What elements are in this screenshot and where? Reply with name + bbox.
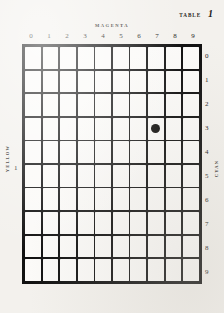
- grid-cell-c7-r5[interactable]: [148, 165, 164, 187]
- grid-cell-c3-r1[interactable]: [78, 71, 94, 93]
- grid-cell-c0-r0[interactable]: [25, 47, 41, 69]
- grid-cell-c3-r4[interactable]: [78, 141, 94, 163]
- grid-cell-c5-r0[interactable]: [113, 47, 129, 69]
- grid-cell-c3-r8[interactable]: [78, 236, 94, 258]
- grid-cell-c8-r8[interactable]: [166, 236, 182, 258]
- grid-cell-c3-r2[interactable]: [78, 94, 94, 116]
- grid-cell-c8-r1[interactable]: [166, 71, 182, 93]
- grid-cell-c8-r3[interactable]: [166, 118, 182, 140]
- grid-cell-c9-r0[interactable]: [183, 47, 199, 69]
- grid-cell-c4-r8[interactable]: [95, 236, 111, 258]
- grid-cell-c6-r6[interactable]: [130, 188, 146, 210]
- grid-cell-c2-r3[interactable]: [60, 118, 76, 140]
- grid-cell-c9-r3[interactable]: [183, 118, 199, 140]
- grid-cell-c6-r8[interactable]: [130, 236, 146, 258]
- grid-cell-c5-r1[interactable]: [113, 71, 129, 93]
- grid-cell-c9-r9[interactable]: [183, 259, 199, 281]
- grid-cell-c2-r5[interactable]: [60, 165, 76, 187]
- grid-cell-c9-r7[interactable]: [183, 212, 199, 234]
- grid-cell-c0-r2[interactable]: [25, 94, 41, 116]
- grid-cell-c2-r7[interactable]: [60, 212, 76, 234]
- grid-cell-c9-r4[interactable]: [183, 141, 199, 163]
- grid-cell-c4-r2[interactable]: [95, 94, 111, 116]
- grid-cell-c1-r7[interactable]: [43, 212, 59, 234]
- grid-cell-c5-r5[interactable]: [113, 165, 129, 187]
- grid-cell-c1-r0[interactable]: [43, 47, 59, 69]
- grid-cell-c3-r0[interactable]: [78, 47, 94, 69]
- grid-cell-c7-r0[interactable]: [148, 47, 164, 69]
- grid-cell-c5-r3[interactable]: [113, 118, 129, 140]
- grid-cell-c4-r7[interactable]: [95, 212, 111, 234]
- grid-cell-c6-r5[interactable]: [130, 165, 146, 187]
- grid-cell-c5-r8[interactable]: [113, 236, 129, 258]
- grid-cell-c6-r1[interactable]: [130, 71, 146, 93]
- grid-cell-c7-r7[interactable]: [148, 212, 164, 234]
- grid-cell-c4-r0[interactable]: [95, 47, 111, 69]
- grid-cell-c3-r3[interactable]: [78, 118, 94, 140]
- grid-cell-c1-r6[interactable]: [43, 188, 59, 210]
- grid-cell-c2-r0[interactable]: [60, 47, 76, 69]
- grid-cell-c1-r1[interactable]: [43, 71, 59, 93]
- grid-cell-c8-r7[interactable]: [166, 212, 182, 234]
- grid-cell-c4-r3[interactable]: [95, 118, 111, 140]
- grid-cell-c4-r4[interactable]: [95, 141, 111, 163]
- grid-cell-c8-r6[interactable]: [166, 188, 182, 210]
- grid-cell-c8-r0[interactable]: [166, 47, 182, 69]
- grid-cell-c1-r2[interactable]: [43, 94, 59, 116]
- grid-cell-c6-r0[interactable]: [130, 47, 146, 69]
- grid-cell-c2-r8[interactable]: [60, 236, 76, 258]
- grid-cell-c8-r2[interactable]: [166, 94, 182, 116]
- grid-cell-c0-r3[interactable]: [25, 118, 41, 140]
- grid-cell-c7-r6[interactable]: [148, 188, 164, 210]
- grid-cell-c9-r5[interactable]: [183, 165, 199, 187]
- grid-cell-c8-r4[interactable]: [166, 141, 182, 163]
- grid-cell-c0-r5[interactable]: [25, 165, 41, 187]
- grid-cell-c7-r3[interactable]: [148, 118, 164, 140]
- grid-cell-c6-r7[interactable]: [130, 212, 146, 234]
- grid-cell-c8-r5[interactable]: [166, 165, 182, 187]
- grid-cell-c5-r7[interactable]: [113, 212, 129, 234]
- grid-cell-c6-r2[interactable]: [130, 94, 146, 116]
- grid-cell-c7-r9[interactable]: [148, 259, 164, 281]
- grid-cell-c0-r7[interactable]: [25, 212, 41, 234]
- grid-cell-c3-r9[interactable]: [78, 259, 94, 281]
- grid-cell-c3-r5[interactable]: [78, 165, 94, 187]
- grid-cell-c5-r9[interactable]: [113, 259, 129, 281]
- grid-cell-c0-r6[interactable]: [25, 188, 41, 210]
- grid-cell-c5-r6[interactable]: [113, 188, 129, 210]
- grid-cell-c2-r6[interactable]: [60, 188, 76, 210]
- grid-cell-c1-r4[interactable]: [43, 141, 59, 163]
- grid-cell-c9-r1[interactable]: [183, 71, 199, 93]
- grid-cell-c4-r6[interactable]: [95, 188, 111, 210]
- grid-cell-c5-r4[interactable]: [113, 141, 129, 163]
- grid-cell-c4-r9[interactable]: [95, 259, 111, 281]
- grid-cell-c6-r9[interactable]: [130, 259, 146, 281]
- grid-cell-c6-r3[interactable]: [130, 118, 146, 140]
- grid-cell-c2-r4[interactable]: [60, 141, 76, 163]
- grid-cell-c3-r7[interactable]: [78, 212, 94, 234]
- grid-cell-c5-r2[interactable]: [113, 94, 129, 116]
- grid-cell-c2-r2[interactable]: [60, 94, 76, 116]
- grid-cell-c2-r1[interactable]: [60, 71, 76, 93]
- grid-cell-c9-r8[interactable]: [183, 236, 199, 258]
- grid-cell-c0-r8[interactable]: [25, 236, 41, 258]
- grid-cell-c2-r9[interactable]: [60, 259, 76, 281]
- grid-cell-c0-r4[interactable]: [25, 141, 41, 163]
- grid-cell-c7-r2[interactable]: [148, 94, 164, 116]
- grid-cell-c1-r8[interactable]: [43, 236, 59, 258]
- grid-cell-c1-r3[interactable]: [43, 118, 59, 140]
- grid-cell-c9-r2[interactable]: [183, 94, 199, 116]
- grid-cell-c7-r4[interactable]: [148, 141, 164, 163]
- grid-cell-c1-r5[interactable]: [43, 165, 59, 187]
- grid-cell-c3-r6[interactable]: [78, 188, 94, 210]
- grid-cell-c9-r6[interactable]: [183, 188, 199, 210]
- grid-cell-c0-r9[interactable]: [25, 259, 41, 281]
- grid-cell-c0-r1[interactable]: [25, 71, 41, 93]
- grid-cell-c7-r8[interactable]: [148, 236, 164, 258]
- grid-cell-c6-r4[interactable]: [130, 141, 146, 163]
- grid-cell-c7-r1[interactable]: [148, 71, 164, 93]
- grid-cell-c8-r9[interactable]: [166, 259, 182, 281]
- grid-cell-c1-r9[interactable]: [43, 259, 59, 281]
- grid-cell-c4-r5[interactable]: [95, 165, 111, 187]
- grid-cell-c4-r1[interactable]: [95, 71, 111, 93]
